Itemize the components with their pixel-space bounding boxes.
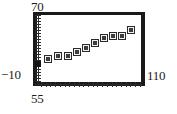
x-axis-tick [69, 82, 70, 87]
scatter-point [110, 33, 116, 39]
x-axis-tick [140, 82, 141, 87]
scatter-point [45, 56, 51, 62]
scatter-point [119, 33, 125, 39]
scatter-point [92, 40, 98, 46]
y-axis-tick [35, 75, 41, 76]
y-axis-tick [35, 33, 41, 34]
x-axis-min-label: 55 [31, 92, 44, 105]
x-axis-tick [130, 82, 131, 87]
y-axis-tick [35, 45, 41, 46]
y-axis-min-label: −10 [1, 68, 21, 81]
x-axis-tick [116, 82, 117, 87]
scatter-point [65, 53, 71, 59]
x-axis-tick [107, 82, 108, 87]
y-axis-tick [35, 57, 41, 58]
y-axis-tick [35, 39, 41, 40]
x-axis-tick [88, 82, 89, 87]
x-axis-tick [112, 82, 113, 87]
y-axis-tick [35, 48, 41, 49]
scatter-point [55, 53, 61, 59]
scatter-point [74, 49, 80, 55]
x-axis-tick [135, 82, 136, 87]
x-axis-tick [46, 82, 47, 87]
y-axis-tick [35, 72, 41, 73]
x-axis-max-label: 110 [147, 69, 165, 82]
y-axis-tick [35, 24, 41, 25]
y-axis-tick [35, 42, 41, 43]
y-axis-tick [35, 36, 41, 37]
x-axis-tick [83, 82, 84, 87]
y-axis-max-label: 70 [31, 0, 44, 13]
x-axis-tick [55, 82, 56, 87]
plot-frame-right-border [141, 12, 145, 86]
x-axis-tick [97, 82, 98, 87]
y-axis-tick [35, 30, 41, 31]
x-axis-tick [65, 82, 66, 87]
x-axis-tick [126, 82, 127, 87]
y-axis-tick [35, 18, 41, 19]
y-axis-tick [35, 21, 41, 22]
y-axis-tick [35, 51, 41, 52]
x-axis-tick [121, 82, 122, 87]
y-axis-tick [35, 27, 41, 28]
x-axis-tick [41, 82, 42, 87]
plot-frame-top-border [33, 12, 145, 15]
scatter-point [128, 27, 134, 33]
x-axis-tick [60, 82, 61, 87]
scatter-point [83, 45, 89, 51]
scatter-plot-figure: 70 −10 55 110 [0, 0, 177, 114]
scatter-point [101, 35, 107, 41]
y-axis-tick [35, 69, 41, 70]
x-axis-tick [50, 82, 51, 87]
y-axis-tick [35, 54, 41, 55]
x-axis-tick [102, 82, 103, 87]
y-axis-tick [35, 78, 41, 79]
x-axis-tick [93, 82, 94, 87]
y-axis-tick [35, 15, 41, 16]
scatter-point [35, 61, 41, 67]
x-axis-tick [74, 82, 75, 87]
x-axis-tick [79, 82, 80, 87]
